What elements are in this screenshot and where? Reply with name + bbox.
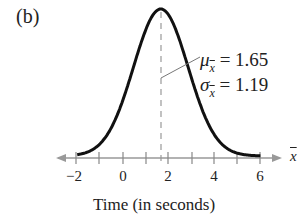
annotation-pointer-line: [161, 57, 200, 78]
tick-label: −2: [66, 168, 82, 185]
tick-label: 0: [119, 168, 127, 185]
tick-label: 6: [256, 168, 264, 185]
x-variable-label: x: [290, 148, 297, 165]
sd-annotation: σx = 1.19: [200, 75, 268, 94]
mean-annotation: μx = 1.65: [200, 50, 268, 69]
axis-arrow-left-icon: [56, 154, 66, 162]
tick-label: 4: [210, 168, 218, 185]
axis-arrow-right-icon: [272, 154, 282, 162]
tick-label: 2: [164, 168, 172, 185]
x-axis-label: Time (in seconds): [0, 195, 308, 215]
normal-curve-plot: [0, 0, 308, 221]
